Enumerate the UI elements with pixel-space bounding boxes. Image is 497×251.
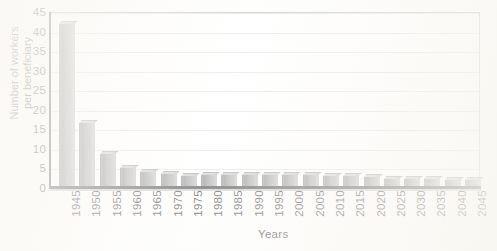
x-axis-tick-labels: 1945195019551960196519701975198019851990…	[0, 190, 497, 230]
plot-area	[50, 12, 480, 188]
x-axis-tick-label: 2045	[476, 190, 488, 217]
gridline	[51, 111, 479, 112]
y-axis-title-wrapper: Number of workers per beneficiary	[0, 0, 40, 190]
x-axis-tick-label: 1945	[70, 190, 82, 217]
x-axis-tick-label: 1970	[172, 190, 184, 217]
bar	[79, 123, 93, 188]
gridline	[51, 13, 479, 14]
x-axis-tick-label: 2040	[456, 190, 468, 217]
x-axis-tick-label: 1965	[151, 190, 163, 217]
bar-side-face	[113, 152, 116, 188]
y-axis-title: Number of workers per beneficiary	[8, 14, 34, 132]
bar	[59, 24, 73, 188]
x-axis-tick-label: 2030	[415, 190, 427, 217]
gridline	[51, 72, 479, 73]
x-axis-tick-label: 1955	[111, 190, 123, 217]
x-axis-tick-label: 1985	[232, 190, 244, 217]
x-axis-tick-label: 1950	[90, 190, 102, 217]
x-axis-tick-label: 2000	[293, 190, 305, 217]
gridline	[51, 33, 479, 34]
y-axis-line	[49, 12, 51, 188]
gridline	[51, 52, 479, 53]
x-axis-tick-label: 2020	[375, 190, 387, 217]
x-axis-tick-label: 2010	[334, 190, 346, 217]
bar	[100, 154, 114, 188]
y-axis-title-line2: per beneficiary	[21, 14, 34, 132]
chart-figure: 051015202530354045 Number of workers per…	[0, 0, 497, 251]
x-axis-tick-label: 2015	[354, 190, 366, 217]
bar	[120, 168, 134, 188]
x-axis-tick-label: 1980	[212, 190, 224, 217]
x-axis-tick-label: 2025	[395, 190, 407, 217]
x-axis-tick-label: 2035	[435, 190, 447, 217]
x-axis-tick-label: 1995	[273, 190, 285, 217]
y-axis-title-line1: Number of workers	[8, 14, 21, 132]
bar-side-face	[133, 166, 136, 188]
x-axis-title: Years	[258, 228, 289, 240]
x-axis-tick-label: 1990	[253, 190, 265, 217]
x-axis-tick-label: 2005	[314, 190, 326, 217]
x-axis-tick-label: 1975	[192, 190, 204, 217]
gridline	[51, 130, 479, 131]
bar-side-face	[92, 121, 95, 188]
gridline	[51, 91, 479, 92]
x-axis-tick-label: 1960	[131, 190, 143, 217]
bar-side-face	[72, 22, 75, 188]
